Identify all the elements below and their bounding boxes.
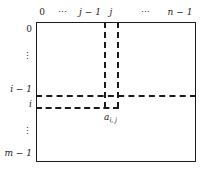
matrix-index-figure: 0 ⋯ j − 1 j ⋯ n − 1 0 ⋮ i − 1 i ⋮ m − 1 …	[0, 0, 208, 173]
row-label-i: i	[29, 100, 32, 109]
row-label-0: 0	[26, 25, 32, 34]
row-guide-top-dashed-line	[36, 95, 196, 97]
column-label-0: 0	[39, 8, 45, 17]
column-label-n-minus-1: n − 1	[168, 8, 193, 17]
column-label-j: j	[110, 8, 113, 17]
row-guide-bottom-dashed-line	[36, 107, 119, 109]
row-label-i-minus-1: i − 1	[10, 85, 32, 94]
column-label-j-minus-1: j − 1	[79, 8, 101, 17]
row-label-m-minus-1: m − 1	[4, 149, 32, 158]
cell-element-subscript: i, j	[109, 116, 116, 124]
row-label-ellipsis-lower: ⋮	[23, 127, 32, 136]
column-label-ellipsis-right: ⋯	[141, 8, 151, 17]
column-label-ellipsis-left: ⋯	[58, 8, 68, 17]
cell-element-label: ai, j	[104, 113, 117, 122]
row-label-ellipsis-upper: ⋮	[23, 52, 32, 61]
matrix-outline	[36, 22, 196, 162]
